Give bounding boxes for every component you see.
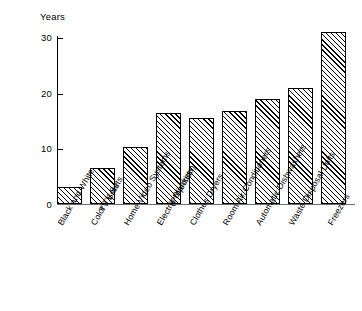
bar-chart: Years 30 20 10 0 Black and White TV Sets… [0, 0, 362, 311]
x-axis-label-line1: Freezers [327, 193, 353, 228]
